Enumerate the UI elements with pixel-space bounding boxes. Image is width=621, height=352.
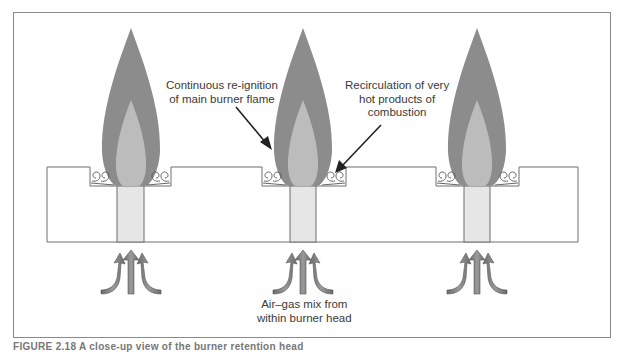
air-gas-arrows-icon <box>101 250 161 294</box>
label-line: of main burner flame <box>166 93 278 107</box>
label-line: combustion <box>345 106 449 120</box>
label-recirculation: Recirculation of very hot products of co… <box>345 79 449 120</box>
air-gas-arrows-icon <box>447 250 507 294</box>
air-gas-arrows-icon <box>273 250 333 294</box>
leader-arrow-recirculation <box>335 125 381 173</box>
label-line: within burner head <box>257 312 352 326</box>
label-reignition: Continuous re-ignition of main burner fl… <box>166 79 278 106</box>
burner-1 <box>91 28 170 294</box>
label-line: Recirculation of very <box>345 79 449 93</box>
burner-tube <box>290 186 316 242</box>
burner-tube <box>117 186 144 242</box>
flame-icon <box>274 28 332 186</box>
label-air-gas: Air–gas mix from within burner head <box>257 298 352 325</box>
label-line: Continuous re-ignition <box>166 79 278 93</box>
flame-icon <box>448 28 506 186</box>
flame-icon <box>102 28 160 186</box>
label-line: Air–gas mix from <box>257 298 352 312</box>
burner-2 <box>263 28 345 294</box>
leader-arrow-reignition <box>236 107 272 150</box>
figure-caption: FIGURE 2.18 A close-up view of the burne… <box>13 341 304 352</box>
label-line: hot products of <box>345 93 449 107</box>
burner-tube <box>464 186 490 242</box>
burner-3 <box>437 28 518 294</box>
